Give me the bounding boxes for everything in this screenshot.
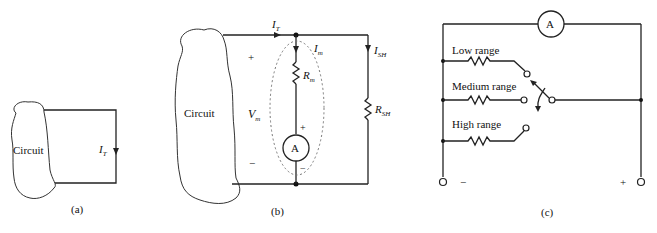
panel-c: A − + Low range Medium range High range … [440,11,645,219]
meter-resistor-label: Rm [302,69,315,84]
current-arrow-icon [113,148,119,155]
selector-arrow-down-icon [535,106,541,112]
total-current-label: IT [271,18,281,33]
terminal-minus-label: − [460,176,466,188]
caption-b: (b) [271,205,284,218]
medium-range-contact [521,97,527,103]
high-range-label: High range [452,118,501,130]
current-label-a: IT [98,143,108,158]
meter-current-arrow-icon [293,46,299,53]
circuit-label-b: Circuit [184,107,215,119]
circuit-label-a: Circuit [13,144,44,156]
shunt-resistor-label: RSH [374,103,391,118]
wire-loop-a [44,110,116,183]
minus-label-b: − [249,157,255,169]
caption-c: (c) [541,206,554,219]
medium-range-resistor-icon [443,96,521,104]
ammeter-symbol-b: A [291,142,299,154]
caption-a: (a) [71,203,84,216]
high-range-contact [523,125,529,131]
low-range-resistor-icon [443,57,525,71]
shunt-resistor-icon [365,98,371,120]
minus-terminal [440,179,447,186]
shunt-current-label: ISH [373,44,387,59]
ammeter-symbol-c: A [546,18,554,30]
low-range-label: Low range [452,44,499,56]
shunt-current-arrow-icon [365,45,371,52]
terminal-plus-label: + [620,176,626,188]
meter-resistor-icon [293,62,299,84]
panel-b: Circuit IT Im Rm + A − + Vm − ISH RSH (b… [175,18,391,218]
plus-label-b: + [248,51,254,63]
ammeter-shunt-figure: Circuit IT (a) Circuit IT Im Rm + A − + … [0,0,657,233]
right-common-node [639,98,643,102]
plus-terminal [638,179,645,186]
medium-range-label: Medium range [452,80,517,92]
meter-plus-label: + [300,122,306,133]
high-range-resistor-icon [443,131,524,145]
panel-a: Circuit IT (a) [11,102,119,216]
meter-current-label: Im [313,42,323,57]
meter-dashed-enclosure [270,41,324,175]
low-range-contact [524,71,530,77]
meter-voltage-label: Vm [248,107,260,123]
selector-pivot [549,97,555,103]
